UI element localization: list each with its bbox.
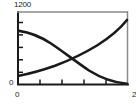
- chart-container: 1200 0 0 2: [0, 0, 136, 104]
- axis-group: [17, 11, 129, 85]
- plot-svg: [17, 11, 129, 86]
- line-series-ascending: [19, 20, 127, 76]
- plot-area: [17, 11, 129, 86]
- y-axis-min-label: 0: [9, 79, 13, 87]
- x-axis-max-label: 2: [132, 91, 136, 99]
- data-series-group: [19, 20, 127, 84]
- x-axis-min-label: 0: [15, 91, 19, 99]
- y-axis-max-label: 1200: [14, 0, 31, 9]
